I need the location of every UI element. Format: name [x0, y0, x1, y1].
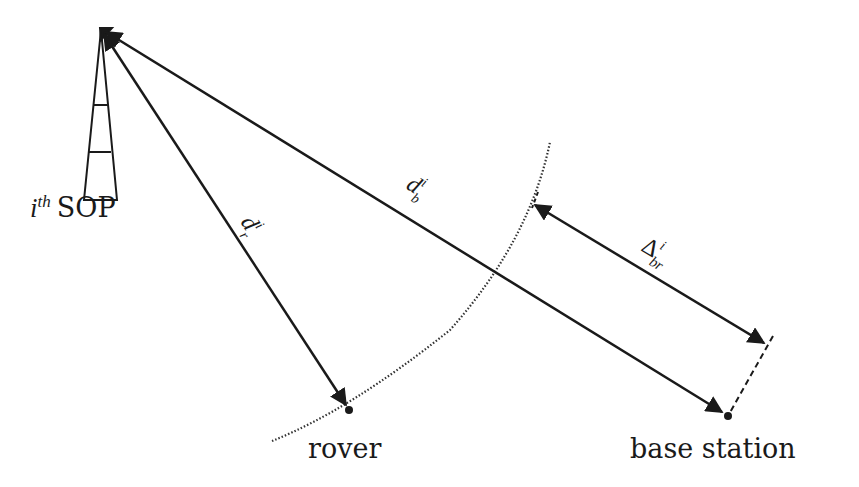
arrow-delta-br: [535, 205, 764, 343]
dashed-perpendicular: [728, 336, 773, 416]
arrow-d-r: [104, 34, 346, 405]
tower-icon: [84, 28, 117, 200]
label-d-b: dib: [399, 169, 431, 207]
rover-label: rover: [308, 433, 381, 464]
diagram-canvas: ithSOP dir dib Δibr rover base station: [0, 0, 859, 487]
base-station-point: [724, 412, 732, 420]
svg-text:dib: dib: [399, 169, 431, 207]
base-station-label: base station: [630, 433, 796, 464]
sop-label: ithSOP: [30, 192, 116, 223]
rover-point: [345, 406, 353, 414]
arrow-d-b: [106, 32, 722, 412]
